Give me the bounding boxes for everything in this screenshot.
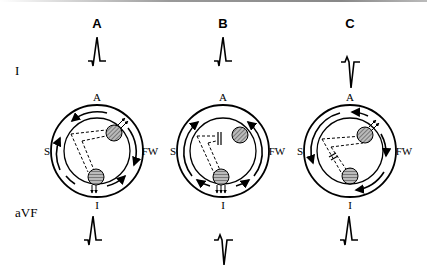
heart-diagram-b bbox=[177, 105, 269, 197]
ecg-b-i bbox=[214, 37, 232, 66]
ecg-lead-avf bbox=[84, 216, 358, 265]
ecg-a-avf bbox=[84, 216, 102, 245]
diagram-canvas bbox=[0, 0, 427, 275]
heart-diagram-a bbox=[51, 105, 143, 197]
ecg-a-i bbox=[88, 37, 106, 66]
ecg-c-avf bbox=[340, 216, 358, 245]
ecg-c-i bbox=[341, 57, 360, 88]
ecg-b-avf bbox=[214, 235, 233, 265]
heart-diagram-c bbox=[304, 105, 396, 197]
ecg-lead-i bbox=[88, 37, 360, 88]
